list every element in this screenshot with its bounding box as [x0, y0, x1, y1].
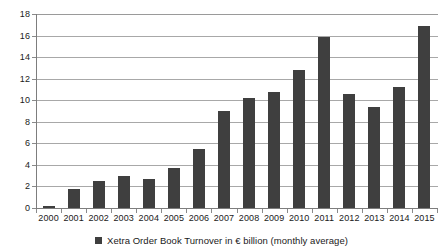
legend-label: Xetra Order Book Turnover in € billion (…: [107, 235, 348, 246]
y-tick-label: 10: [0, 96, 30, 105]
bar: [43, 206, 55, 208]
bar: [93, 181, 105, 208]
x-tick-mark: [111, 209, 112, 213]
x-tick-mark: [136, 209, 137, 213]
x-tick-mark: [437, 209, 438, 213]
y-tick-label: 12: [0, 74, 30, 83]
plot-wrapper: 024681012141618 200020012002200320042005…: [0, 0, 443, 225]
bar: [343, 94, 355, 208]
bar: [318, 37, 330, 208]
y-tick-mark: [32, 143, 36, 144]
y-tick-mark: [32, 79, 36, 80]
y-tick-label: 16: [0, 31, 30, 40]
y-tick-label: 2: [0, 182, 30, 191]
y-tick-mark: [32, 165, 36, 166]
x-tick-label: 2000: [38, 213, 58, 224]
y-axis-tick-labels: 024681012141618: [0, 14, 30, 208]
bars-layer: [36, 14, 437, 208]
x-tick-label: 2010: [289, 213, 309, 224]
bar: [193, 149, 205, 208]
y-tick-label: 0: [0, 204, 30, 213]
bar: [68, 189, 80, 208]
bar: [393, 87, 405, 208]
x-tick-label: 2006: [189, 213, 209, 224]
y-tick-mark: [32, 36, 36, 37]
bar: [118, 176, 130, 208]
chart-legend: Xetra Order Book Turnover in € billion (…: [0, 232, 443, 248]
y-tick-mark: [32, 186, 36, 187]
x-tick-label: 2011: [314, 213, 334, 224]
bar: [143, 179, 155, 208]
x-tick-mark: [61, 209, 62, 213]
x-tick-label: 2015: [414, 213, 434, 224]
y-tick-mark: [32, 14, 36, 15]
x-tick-label: 2013: [364, 213, 384, 224]
x-tick-mark: [211, 209, 212, 213]
y-tick-label: 8: [0, 117, 30, 126]
bar: [168, 168, 180, 208]
x-tick-mark: [412, 209, 413, 213]
bar: [293, 70, 305, 208]
bar: [268, 92, 280, 208]
bar: [418, 26, 430, 208]
y-tick-label: 4: [0, 160, 30, 169]
x-tick-mark: [337, 209, 338, 213]
x-tick-mark: [186, 209, 187, 213]
legend-swatch-icon: [95, 237, 102, 244]
x-tick-label: 2005: [164, 213, 184, 224]
x-tick-mark: [312, 209, 313, 213]
x-tick-label: 2001: [63, 213, 83, 224]
y-tick-mark: [32, 57, 36, 58]
x-tick-label: 2007: [214, 213, 234, 224]
x-tick-mark: [387, 209, 388, 213]
x-tick-label: 2012: [339, 213, 359, 224]
x-tick-label: 2004: [139, 213, 159, 224]
x-tick-mark: [237, 209, 238, 213]
x-tick-label: 2002: [88, 213, 108, 224]
y-tick-label: 6: [0, 139, 30, 148]
y-tick-mark: [32, 122, 36, 123]
x-tick-mark: [262, 209, 263, 213]
bar: [368, 107, 380, 208]
x-tick-mark: [362, 209, 363, 213]
x-tick-label: 2014: [389, 213, 409, 224]
y-tick-label: 18: [0, 10, 30, 19]
x-tick-label: 2008: [239, 213, 259, 224]
x-tick-mark: [36, 209, 37, 213]
y-tick-mark: [32, 100, 36, 101]
x-tick-mark: [86, 209, 87, 213]
bar: [218, 111, 230, 208]
x-tick-label: 2009: [264, 213, 284, 224]
x-tick-mark: [161, 209, 162, 213]
x-tick-mark: [287, 209, 288, 213]
bar-chart: 024681012141618 200020012002200320042005…: [0, 0, 443, 251]
bar: [243, 98, 255, 208]
x-axis-tick-labels: 2000200120022003200420052006200720082009…: [36, 213, 437, 227]
y-tick-label: 14: [0, 53, 30, 62]
x-tick-label: 2003: [114, 213, 134, 224]
